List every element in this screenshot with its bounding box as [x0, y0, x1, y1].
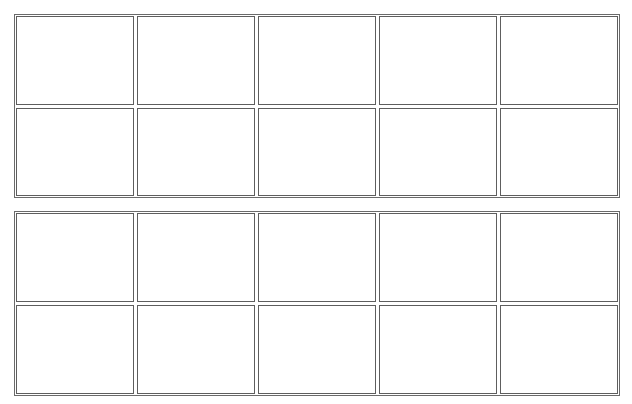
- frame-cell: [379, 16, 497, 105]
- frame-cell: [16, 305, 134, 394]
- frame-cell: [137, 108, 255, 197]
- frame-cell: [500, 16, 618, 105]
- frame-cell: [379, 305, 497, 394]
- frame-cell: [258, 305, 376, 394]
- frame-cell: [16, 108, 134, 197]
- frame-cell: [500, 213, 618, 302]
- ten-frame-1: [14, 14, 620, 198]
- ten-frame-2: [14, 211, 620, 396]
- frame-cell: [500, 108, 618, 197]
- frame-cell: [137, 16, 255, 105]
- frame-cell: [137, 213, 255, 302]
- frame-cell: [258, 213, 376, 302]
- frame-cell: [500, 305, 618, 394]
- frame-cell: [379, 213, 497, 302]
- frame-cell: [137, 305, 255, 394]
- frame-cell: [16, 213, 134, 302]
- frame-cell: [258, 108, 376, 197]
- frame-cell: [16, 16, 134, 105]
- frame-cell: [379, 108, 497, 197]
- frame-cell: [258, 16, 376, 105]
